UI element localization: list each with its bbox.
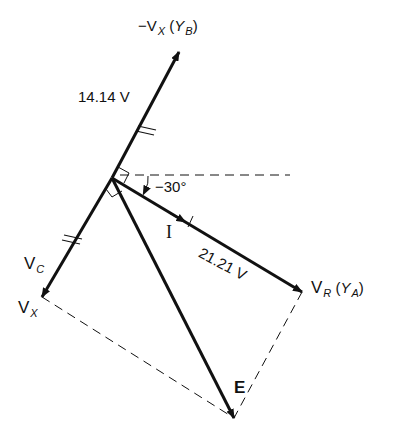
- label-angle: −30°: [155, 178, 186, 195]
- equal-tick-lower-2: [62, 240, 80, 244]
- phasor-diagram-canvas: [0, 0, 404, 442]
- equal-tick-upper-1: [138, 126, 156, 130]
- label-vr: VR (YA): [311, 278, 364, 298]
- label-e: E: [234, 378, 245, 398]
- label-neg-vx: −VX (YB): [138, 17, 198, 34]
- label-vx: VX: [18, 298, 38, 318]
- equal-tick-upper-2: [136, 131, 154, 135]
- dashed-vr-to-e: [234, 292, 302, 418]
- label-vc: VC: [24, 254, 44, 274]
- angle-arc: [145, 176, 148, 191]
- neg-vx-phasor: [112, 52, 179, 178]
- label-vc-magnitude: 14.14 V: [78, 88, 130, 105]
- current-arrow-marker: [170, 213, 182, 220]
- dashed-vx-to-e: [42, 297, 234, 418]
- label-current: I: [166, 222, 172, 243]
